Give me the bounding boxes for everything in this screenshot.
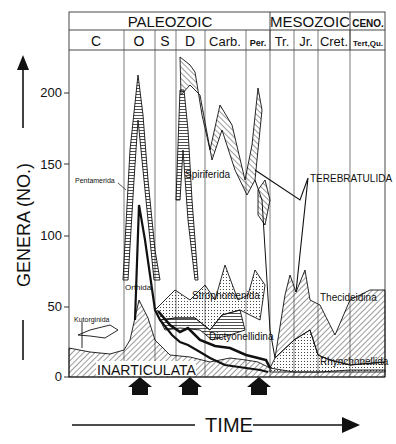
up-arrow-icon [128,377,152,395]
area-dpeak-ladder [176,90,198,280]
period-d: D [185,33,195,49]
label-kutorginida: Kutorginida [74,316,110,324]
y-tick-0: 0 [55,369,62,384]
y-tick-200: 200 [40,85,62,100]
area-spiriferida-mid [258,180,270,225]
period-jr: Jr. [299,34,313,49]
label-strophomenida: Strophomenida [192,290,260,301]
right-arrow-icon [342,417,360,433]
period-per: Per. [250,38,267,48]
label-dictyonellidina: Dictyonellidina [209,331,274,342]
period-o: O [134,33,145,49]
label-rhynchonellida: Rhynchonellida [320,356,389,367]
brachiopod-diversity-chart: PALEOZOIC MESOZOIC CENO. C O S D Carb. P… [0,0,396,444]
period-s: S [160,33,169,49]
y-tick-150: 150 [40,157,62,172]
y-tick-100: 100 [40,228,62,243]
label-pentamerida: Pentamerida [75,177,115,184]
y-axis-title-group: GENERA (NO.) [14,55,34,360]
label-terebratulida: TEREBRATULIDA [310,173,392,184]
period-tert-qu: Tert,Qu. [353,39,383,48]
period-cret: Cret. [320,34,348,49]
period-carb: Carb. [209,34,241,49]
area-kutorginida [78,325,118,338]
label-inarticulata: INARTICULATA [97,362,196,378]
label-orthida: Orthida [125,283,152,292]
y-axis [64,93,69,377]
era-mesozoic: MESOZOIC [270,13,350,30]
period-c: C [91,33,101,49]
era-paleozoic: PALEOZOIC [128,13,213,30]
period-tr: Tr. [275,34,290,49]
extinction-arrows [128,377,271,395]
label-spiriferida: Spiriferida [185,169,230,180]
x-axis-title-group: TIME [72,414,360,436]
y-tick-50: 50 [48,299,62,314]
up-arrow-icon [247,377,271,395]
up-arrow-icon [178,377,202,395]
era-cenozoic: CENO. [352,18,384,29]
x-axis-title: TIME [205,414,253,436]
plot-area [69,57,385,377]
y-axis-title: GENERA (NO.) [14,163,34,287]
label-thecideidina: Thecideidina [320,292,377,303]
up-arrow-icon [17,55,29,70]
area-pentamerida [123,75,160,280]
